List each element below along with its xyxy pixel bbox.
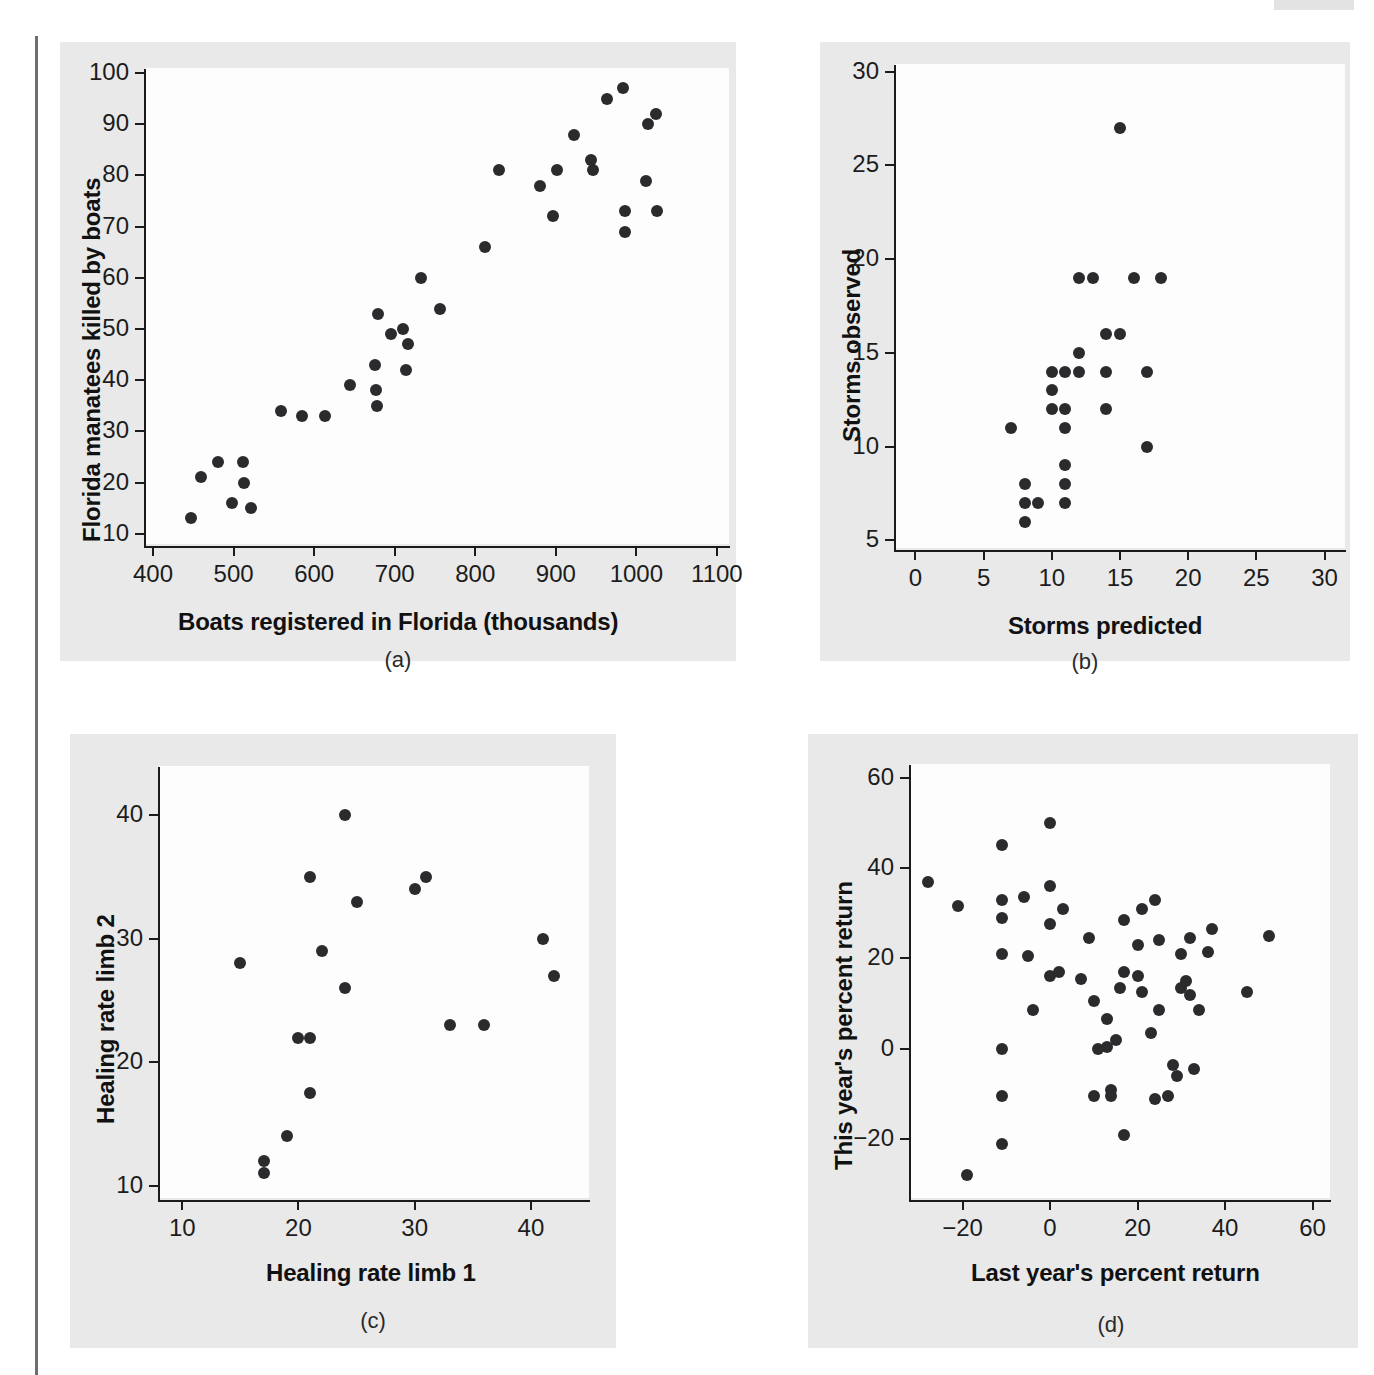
data-point bbox=[281, 1130, 293, 1142]
data-point bbox=[1073, 366, 1085, 378]
data-point bbox=[1171, 1070, 1183, 1082]
y-tick-a-20 bbox=[135, 482, 144, 484]
data-point bbox=[548, 970, 560, 982]
data-point bbox=[1044, 817, 1056, 829]
x-tick-b-20 bbox=[1187, 551, 1189, 560]
y-tick-label-c-20: 20 bbox=[59, 1047, 143, 1075]
x-tick-d--20 bbox=[962, 1201, 964, 1210]
x-tick-label-d--20: −20 bbox=[918, 1214, 1008, 1242]
data-point bbox=[1241, 986, 1253, 998]
y-tick-label-a-40: 40 bbox=[45, 365, 129, 393]
data-point bbox=[258, 1167, 270, 1179]
data-point bbox=[1153, 934, 1165, 946]
x-tick-c-30 bbox=[414, 1201, 416, 1210]
data-point bbox=[1110, 1034, 1122, 1046]
data-point bbox=[1136, 986, 1148, 998]
data-point bbox=[371, 400, 383, 412]
y-tick-label-a-100: 100 bbox=[45, 58, 129, 86]
y-tick-label-a-10: 10 bbox=[45, 519, 129, 547]
data-point bbox=[651, 205, 663, 217]
x-axis-title-c: Healing rate limb 1 bbox=[266, 1259, 476, 1287]
x-tick-a-500 bbox=[233, 547, 235, 556]
x-tick-b-30 bbox=[1324, 551, 1326, 560]
data-point bbox=[420, 871, 432, 883]
data-point bbox=[1114, 328, 1126, 340]
data-point bbox=[434, 303, 446, 315]
data-point bbox=[1184, 989, 1196, 1001]
data-point bbox=[996, 1090, 1008, 1102]
data-point bbox=[1145, 1027, 1157, 1039]
data-point bbox=[402, 338, 414, 350]
data-point bbox=[185, 512, 197, 524]
y-tick-b-10 bbox=[885, 446, 894, 448]
data-point bbox=[1128, 272, 1140, 284]
x-tick-d-60 bbox=[1312, 1201, 1314, 1210]
y-tick-d-60 bbox=[900, 777, 909, 779]
data-point bbox=[1032, 497, 1044, 509]
data-point bbox=[369, 359, 381, 371]
data-point bbox=[537, 933, 549, 945]
data-point bbox=[1136, 903, 1148, 915]
y-tick-label-d-20: 20 bbox=[810, 943, 894, 971]
y-tick-label-a-80: 80 bbox=[45, 160, 129, 188]
y-tick-a-100 bbox=[135, 72, 144, 74]
data-point bbox=[1188, 1063, 1200, 1075]
y-tick-c-30 bbox=[149, 938, 158, 940]
y-tick-c-10 bbox=[149, 1185, 158, 1187]
data-point bbox=[1059, 366, 1071, 378]
data-point bbox=[1088, 1090, 1100, 1102]
data-point bbox=[1153, 1004, 1165, 1016]
data-point bbox=[409, 883, 421, 895]
data-point bbox=[1022, 950, 1034, 962]
data-point bbox=[304, 871, 316, 883]
data-point bbox=[1132, 970, 1144, 982]
y-tick-label-b-15: 15 bbox=[795, 338, 879, 366]
data-point bbox=[245, 502, 257, 514]
y-tick-label-b-20: 20 bbox=[795, 244, 879, 272]
y-tick-label-a-20: 20 bbox=[45, 468, 129, 496]
y-tick-label-b-10: 10 bbox=[795, 432, 879, 460]
data-point bbox=[996, 1138, 1008, 1150]
data-point bbox=[1027, 1004, 1039, 1016]
data-point bbox=[534, 180, 546, 192]
x-tick-d-0 bbox=[1049, 1201, 1051, 1210]
data-point bbox=[1019, 497, 1031, 509]
chart-panel-d: This year's percent return Last year's p… bbox=[808, 734, 1358, 1348]
data-point bbox=[1059, 478, 1071, 490]
y-tick-label-a-70: 70 bbox=[45, 212, 129, 240]
data-point bbox=[397, 323, 409, 335]
y-tick-a-50 bbox=[135, 328, 144, 330]
x-tick-a-900 bbox=[555, 547, 557, 556]
data-point bbox=[1100, 403, 1112, 415]
data-point bbox=[339, 982, 351, 994]
data-point bbox=[642, 118, 654, 130]
data-point bbox=[344, 379, 356, 391]
data-point bbox=[304, 1032, 316, 1044]
x-tick-label-a-700: 700 bbox=[350, 560, 440, 588]
x-tick-a-400 bbox=[152, 547, 154, 556]
x-tick-a-700 bbox=[394, 547, 396, 556]
x-tick-b-25 bbox=[1255, 551, 1257, 560]
data-point bbox=[1101, 1013, 1113, 1025]
x-tick-label-a-1000: 1000 bbox=[591, 560, 681, 588]
data-point bbox=[1167, 1059, 1179, 1071]
data-point bbox=[961, 1169, 973, 1181]
x-tick-label-c-20: 20 bbox=[253, 1214, 343, 1242]
y-tick-label-c-10: 10 bbox=[59, 1171, 143, 1199]
x-tick-a-600 bbox=[313, 547, 315, 556]
x-tick-c-40 bbox=[530, 1201, 532, 1210]
data-point bbox=[619, 205, 631, 217]
data-points-c bbox=[70, 734, 616, 1348]
data-point bbox=[1114, 122, 1126, 134]
data-point bbox=[1180, 975, 1192, 987]
data-point bbox=[996, 912, 1008, 924]
data-point bbox=[1018, 891, 1030, 903]
data-point bbox=[212, 456, 224, 468]
y-tick-label-a-30: 30 bbox=[45, 416, 129, 444]
y-tick-label-b-30: 30 bbox=[795, 57, 879, 85]
data-point bbox=[1141, 366, 1153, 378]
data-point bbox=[922, 876, 934, 888]
y-tick-c-40 bbox=[149, 814, 158, 816]
y-tick-a-30 bbox=[135, 430, 144, 432]
data-point bbox=[587, 164, 599, 176]
